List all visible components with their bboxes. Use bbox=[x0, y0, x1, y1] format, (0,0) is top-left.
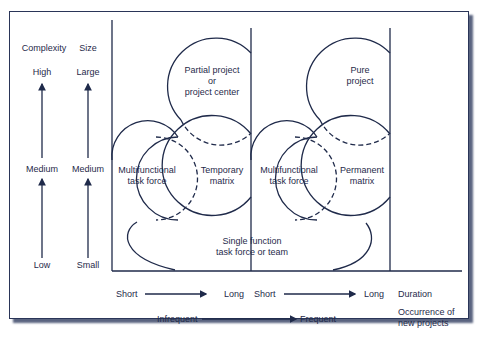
label-permanent-matrix: Permanent matrix bbox=[330, 165, 394, 187]
size-header: Size bbox=[72, 43, 104, 54]
occurrence-frequent: Frequent bbox=[300, 314, 336, 325]
complexity-low: Low bbox=[22, 260, 62, 271]
label-temporary-matrix: Temporary matrix bbox=[192, 165, 252, 187]
duration-label: Duration bbox=[398, 289, 432, 300]
label-right-multifunctional: Multifunctional task force bbox=[252, 165, 326, 187]
label-left-multifunctional: Multifunctional task force bbox=[110, 165, 184, 187]
size-medium: Medium bbox=[66, 164, 110, 175]
duration-right-long: Long bbox=[364, 289, 384, 300]
label-partial-project: Partial project or project center bbox=[172, 65, 252, 98]
label-pure-project: Pure project bbox=[330, 65, 390, 87]
size-large: Large bbox=[68, 67, 108, 78]
duration-left-short: Short bbox=[116, 289, 138, 300]
label-single-function: Single function task force or team bbox=[200, 236, 304, 258]
complexity-medium: Medium bbox=[20, 164, 64, 175]
duration-right-short: Short bbox=[254, 289, 276, 300]
complexity-high: High bbox=[22, 67, 62, 78]
size-small: Small bbox=[68, 260, 108, 271]
occurrence-infrequent: Infrequent bbox=[157, 314, 198, 325]
duration-left-long: Long bbox=[224, 289, 244, 300]
complexity-header: Complexity bbox=[16, 43, 72, 54]
occurrence-label: Occurrence of new projects bbox=[398, 307, 455, 329]
